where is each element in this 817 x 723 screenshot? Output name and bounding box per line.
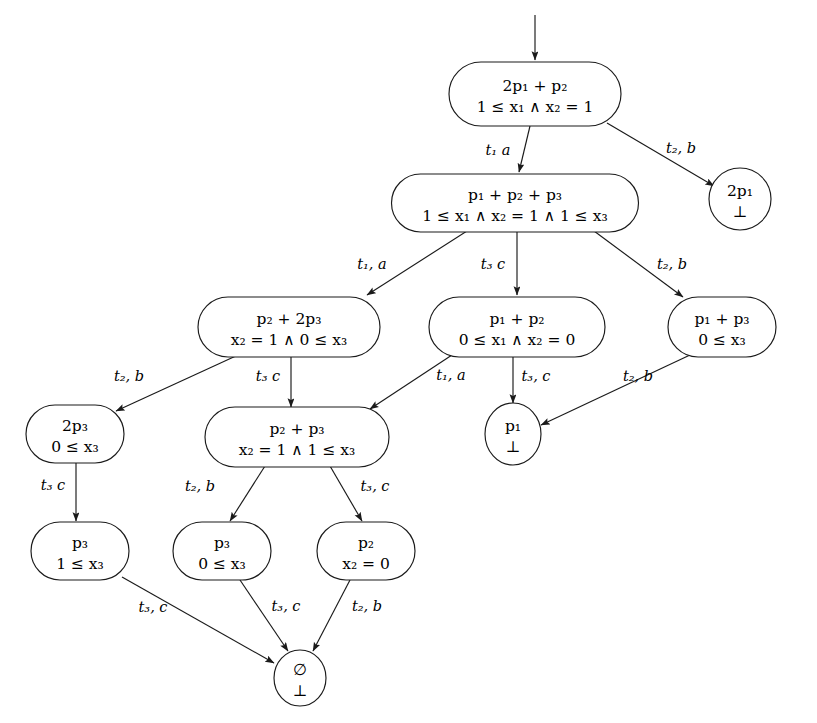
node-line2: 0 ≤ x₃ <box>51 438 99 456</box>
node-line1: p₃ <box>72 534 88 552</box>
node-line2: ⊥ <box>506 438 521 456</box>
node-line1: p₁ <box>505 417 521 435</box>
edge-label-e4: t₂, b <box>657 256 687 272</box>
node-line2: 1 ≤ x₁ ∧ x₂ = 1 <box>477 98 594 116</box>
node-line1: ∅ <box>293 661 307 679</box>
node-line1: p₁ + p₃ <box>694 310 749 328</box>
edge-e11 <box>230 466 265 521</box>
edge-label-e6: t₃ c <box>256 368 280 384</box>
edge-e9 <box>541 355 690 425</box>
node-n7[interactable]: p₂ + p₃x₂ = 1 ∧ 1 ≤ x₃ <box>205 407 389 467</box>
node-n0[interactable]: 2p₁ + p₂1 ≤ x₁ ∧ x₂ = 1 <box>449 62 621 126</box>
edge-label-e11: t₂, b <box>185 478 215 494</box>
edge-e14 <box>240 580 288 651</box>
node-line2: ⊥ <box>733 203 748 221</box>
edge-label-e2: t₁, a <box>357 256 387 272</box>
node-line2: 0 ≤ x₃ <box>698 331 746 349</box>
graph-svg: 2p₁ + p₂1 ≤ x₁ ∧ x₂ = 1p₁ + p₂ + p₃1 ≤ x… <box>0 0 817 723</box>
node-n8[interactable]: p₁⊥ <box>485 403 541 465</box>
node-line2: 1 ≤ x₃ <box>56 555 104 573</box>
node-line2: x₂ = 1 ∧ 1 ≤ x₃ <box>239 441 356 459</box>
node-line1: p₂ + 2p₃ <box>257 310 322 328</box>
edge-label-e13: t₃, c <box>139 599 168 615</box>
edge-label-e9: t₂, b <box>623 368 653 384</box>
node-line2: x₂ = 0 <box>342 555 390 573</box>
node-line2: 1 ≤ x₁ ∧ x₂ = 1 ∧ 1 ≤ x₃ <box>422 207 607 225</box>
node-n5[interactable]: p₁ + p₃0 ≤ x₃ <box>668 297 776 357</box>
edge-e0 <box>519 126 530 172</box>
node-n4[interactable]: p₁ + p₂0 ≤ x₁ ∧ x₂ = 0 <box>429 297 605 357</box>
edge-label-e14: t₃, c <box>272 598 301 614</box>
node-line1: p₁ + p₂ + p₃ <box>468 186 562 204</box>
node-line1: p₃ <box>214 534 230 552</box>
edge-label-e12: t₃, c <box>361 478 390 494</box>
edge-label-e8: t₃, c <box>522 368 551 384</box>
edge-label-e15: t₂, b <box>352 598 382 614</box>
node-line1: 2p₁ + p₂ <box>503 77 568 95</box>
node-n9[interactable]: p₃1 ≤ x₃ <box>31 522 129 580</box>
edge-label-e5: t₂, b <box>114 368 144 384</box>
edge-e15 <box>313 580 350 651</box>
edge-e1 <box>607 123 714 186</box>
node-line2: ⊥ <box>293 682 308 700</box>
node-n11[interactable]: p₂x₂ = 0 <box>317 522 415 580</box>
node-line1: 2p₁ <box>727 182 753 200</box>
node-n2[interactable]: 2p₁⊥ <box>709 168 771 230</box>
node-line1: p₂ + p₃ <box>269 420 324 438</box>
edge-label-e1: t₂, b <box>666 140 696 156</box>
edge-label-e3: t₃ c <box>481 256 505 272</box>
node-line1: p₁ + p₂ <box>489 310 544 328</box>
node-line2: 0 ≤ x₃ <box>198 555 246 573</box>
node-n12[interactable]: ∅⊥ <box>274 650 326 706</box>
node-line1: 2p₃ <box>62 417 88 435</box>
edge-label-e10: t₃ c <box>41 477 65 493</box>
edge-label-e7: t₁, a <box>436 367 466 383</box>
node-line1: p₂ <box>358 534 374 552</box>
edge-label-e0: t₁ a <box>486 142 511 158</box>
edge-e13 <box>122 577 274 663</box>
node-n10[interactable]: p₃0 ≤ x₃ <box>173 522 271 580</box>
edge-e12 <box>330 466 362 521</box>
node-line2: x₂ = 1 ∧ 0 ≤ x₃ <box>231 331 348 349</box>
node-n6[interactable]: 2p₃0 ≤ x₃ <box>26 405 124 463</box>
node-line2: 0 ≤ x₁ ∧ x₂ = 0 <box>459 331 576 349</box>
diagram-canvas: 2p₁ + p₂1 ≤ x₁ ∧ x₂ = 1p₁ + p₂ + p₃1 ≤ x… <box>0 0 817 723</box>
node-n1[interactable]: p₁ + p₂ + p₃1 ≤ x₁ ∧ x₂ = 1 ∧ 1 ≤ x₃ <box>392 174 639 232</box>
node-n3[interactable]: p₂ + 2p₃x₂ = 1 ∧ 0 ≤ x₃ <box>198 297 380 357</box>
